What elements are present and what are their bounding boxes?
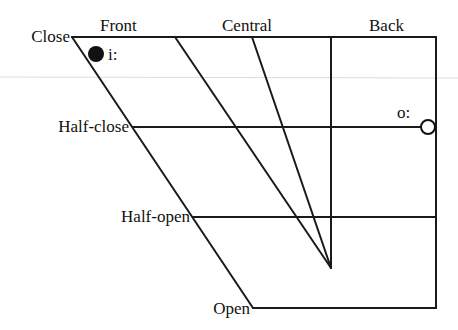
row-label-close: Close [31,27,70,46]
row-label-half-close: Half-close [58,117,129,136]
filled-circle-icon [88,46,104,62]
row-label-open: Open [213,299,250,318]
vowel-chart: Front Central Back Close Half-close Half… [0,0,458,330]
open-circle-icon [421,120,435,134]
central-diagonal-left [175,37,331,268]
column-label-central: Central [222,16,272,35]
column-label-front: Front [100,16,137,35]
column-label-back: Back [369,16,404,35]
central-diagonal-right [252,37,331,268]
vowel-symbol-i: i: [108,45,117,64]
scan-artifact-line [0,77,458,78]
vowel-symbol-o: o: [397,103,410,122]
row-label-half-open: Half-open [121,207,190,226]
